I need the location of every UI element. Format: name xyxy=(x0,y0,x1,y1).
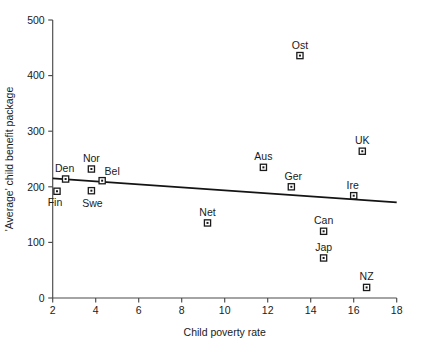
data-point-core-bel xyxy=(101,180,103,182)
chart-canvas: 246810121416180100200300400500FinDenNorS… xyxy=(0,0,425,345)
data-point-core-nz xyxy=(366,286,368,288)
x-tick-label-14: 14 xyxy=(305,304,317,316)
y-tick-label-200: 200 xyxy=(27,181,45,193)
x-tick-label-2: 2 xyxy=(50,304,56,316)
data-label-bel: Bel xyxy=(105,165,120,177)
data-point-core-fin xyxy=(56,190,58,192)
data-label-can: Can xyxy=(314,214,333,226)
x-tick-label-18: 18 xyxy=(391,304,403,316)
x-tick-label-10: 10 xyxy=(219,304,231,316)
scatter-chart: 246810121416180100200300400500FinDenNorS… xyxy=(0,0,425,345)
data-label-fin: Fin xyxy=(48,196,63,208)
y-tick-label-300: 300 xyxy=(27,125,45,137)
x-tick-label-12: 12 xyxy=(262,304,274,316)
data-point-core-uk xyxy=(361,150,363,152)
x-tick-label-4: 4 xyxy=(93,304,99,316)
data-point-core-jap xyxy=(323,257,325,259)
y-tick-label-100: 100 xyxy=(27,236,45,248)
x-tick-label-6: 6 xyxy=(136,304,142,316)
y-axis-title: 'Average' child benefit package xyxy=(3,87,15,232)
x-axis-title: Child poverty rate xyxy=(184,326,266,338)
data-label-nz: NZ xyxy=(360,270,375,282)
data-label-nor: Nor xyxy=(83,152,100,164)
data-label-ger: Ger xyxy=(285,170,303,182)
data-point-core-den xyxy=(65,178,67,180)
y-tick-label-0: 0 xyxy=(39,292,45,304)
data-label-ire: Ire xyxy=(347,179,359,191)
data-label-net: Net xyxy=(199,206,215,218)
data-point-core-ost xyxy=(299,55,301,57)
data-point-core-aus xyxy=(262,166,264,168)
data-point-core-ire xyxy=(353,195,355,197)
x-tick-label-16: 16 xyxy=(348,304,360,316)
data-label-swe: Swe xyxy=(82,197,103,209)
data-label-den: Den xyxy=(55,162,74,174)
data-point-core-nor xyxy=(90,168,92,170)
data-point-core-net xyxy=(207,222,209,224)
data-point-core-ger xyxy=(290,186,292,188)
y-tick-label-400: 400 xyxy=(27,69,45,81)
y-tick-label-500: 500 xyxy=(27,14,45,26)
data-label-jap: Jap xyxy=(315,241,332,253)
data-label-uk: UK xyxy=(355,134,370,146)
data-label-aus: Aus xyxy=(254,150,272,162)
x-tick-label-8: 8 xyxy=(179,304,185,316)
data-label-ost: Ost xyxy=(292,39,308,51)
data-point-core-can xyxy=(323,230,325,232)
data-point-core-swe xyxy=(90,190,92,192)
